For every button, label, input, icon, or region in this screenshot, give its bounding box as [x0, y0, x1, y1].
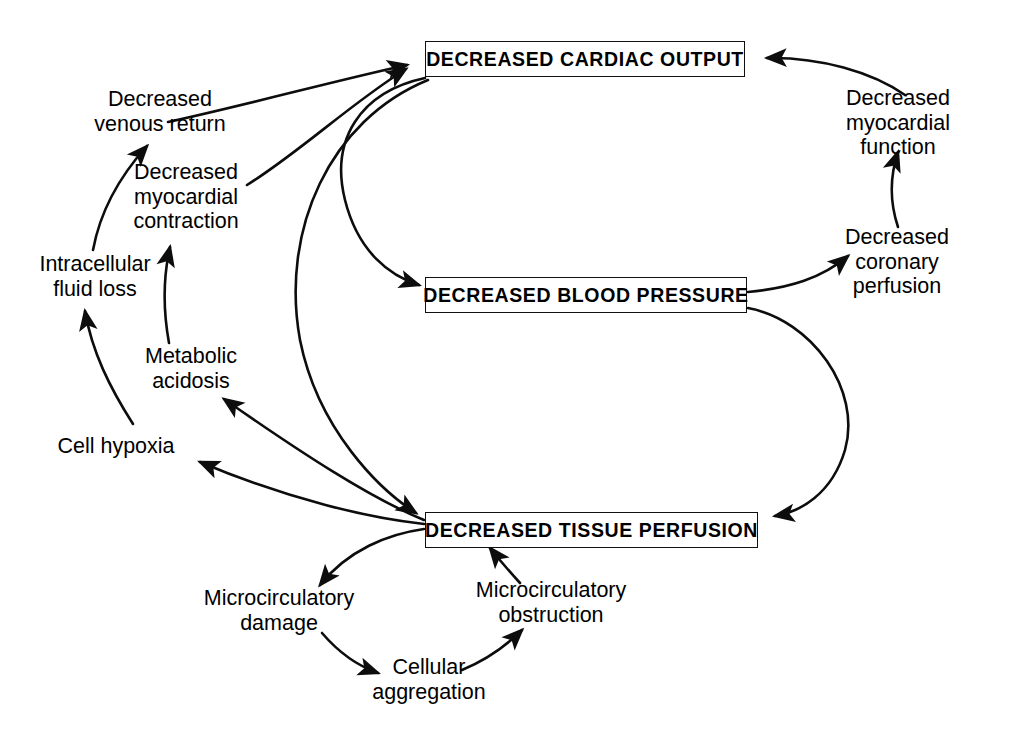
label-microcirculatory-damage: Microcirculatory damage	[204, 586, 355, 635]
label-cellular-aggregation: Cellular aggregation	[372, 655, 486, 704]
label-decreased-myocardial-contraction: Decreased myocardial contraction	[133, 160, 238, 234]
node-decreased-blood-pressure-label: DECREASED BLOOD PRESSURE	[423, 284, 748, 307]
edge-cell-hypoxia-to-intracellular-fluid-loss	[85, 311, 133, 424]
edge-myocardial-contraction-to-cardiac-output	[247, 69, 406, 185]
edge-cardiac-output-to-blood-pressure	[341, 78, 425, 285]
label-metabolic-acidosis: Metabolic acidosis	[145, 344, 237, 393]
label-decreased-coronary-perfusion: Decreased coronary perfusion	[840, 225, 955, 299]
node-decreased-blood-pressure[interactable]: DECREASED BLOOD PRESSURE	[425, 277, 747, 313]
node-decreased-cardiac-output-label: DECREASED CARDIAC OUTPUT	[426, 48, 744, 71]
edge-blood-pressure-to-tissue-perfusion	[748, 308, 848, 516]
edge-blood-pressure-to-coronary-perfusion	[748, 256, 848, 292]
edge-coronary-perfusion-to-myocardial-function	[892, 152, 898, 227]
node-decreased-tissue-perfusion[interactable]: DECREASED TISSUE PERFUSION	[425, 512, 758, 548]
label-decreased-venous-return: Decreased venous return	[94, 87, 225, 136]
edge-microcirculatory-damage-to-cellular-aggregation	[322, 633, 378, 673]
edge-cardiac-output-to-tissue-perfusion	[296, 80, 428, 513]
edge-tissue-perfusion-to-metabolic-acidosis	[224, 399, 424, 520]
label-cell-hypoxia: Cell hypoxia	[57, 434, 174, 459]
label-intracellular-fluid-loss: Intracellular fluid loss	[39, 252, 150, 301]
edge-metabolic-acidosis-to-myocardial-contraction	[165, 247, 170, 343]
label-microcirculatory-obstruction: Microcirculatory obstruction	[476, 578, 627, 627]
node-decreased-tissue-perfusion-label: DECREASED TISSUE PERFUSION	[425, 519, 758, 542]
edge-tissue-perfusion-to-microcirculatory-damage	[320, 529, 424, 585]
flow-diagram: DECREASED CARDIAC OUTPUT DECREASED BLOOD…	[0, 0, 1012, 737]
label-decreased-myocardial-function: Decreased myocardial function	[841, 86, 955, 160]
node-decreased-cardiac-output[interactable]: DECREASED CARDIAC OUTPUT	[425, 41, 745, 77]
